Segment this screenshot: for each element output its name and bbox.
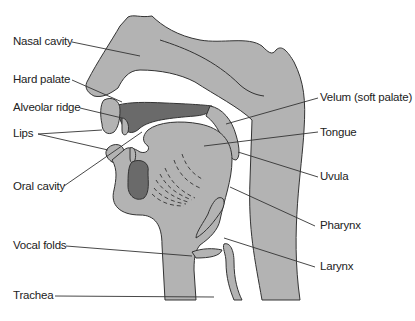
vocal-tract-illustration [0, 0, 415, 321]
label-larynx: Larynx [320, 260, 353, 272]
larynx-cartilage [223, 244, 242, 300]
sublingual-dark [128, 160, 148, 199]
label-velum: Velum (soft palate) [320, 91, 412, 103]
label-trachea: Trachea [13, 289, 53, 301]
vocal-folds [192, 249, 222, 258]
upper-lip [101, 98, 120, 133]
label-hard-palate: Hard palate [13, 73, 70, 85]
label-uvula: Uvula [320, 170, 348, 182]
label-nasal-cavity: Nasal cavity [13, 35, 73, 47]
label-pharynx: Pharynx [320, 219, 361, 231]
label-alveolar-ridge: Alveolar ridge [13, 101, 81, 113]
label-oral-cavity: Oral cavity [13, 180, 65, 192]
label-vocal-folds: Vocal folds [13, 239, 66, 251]
label-tongue: Tongue [320, 126, 357, 138]
label-lips: Lips [13, 127, 33, 139]
